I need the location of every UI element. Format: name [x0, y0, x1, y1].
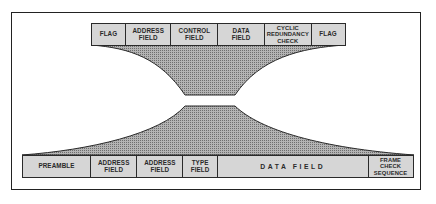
- top-field-crc: CYCLIC REDUNDANCY CHECK: [264, 23, 312, 46]
- top-field-flag-start: FLAG: [91, 23, 126, 46]
- top-field-control: CONTROL FIELD: [170, 23, 218, 46]
- bottom-field-preamble: PREAMBLE: [22, 155, 91, 178]
- bottom-field-address-1: ADDRESS FIELD: [90, 155, 138, 178]
- bottom-frame-row: PREAMBLE ADDRESS FIELD ADDRESS FIELD TYP…: [22, 155, 414, 178]
- top-field-address: ADDRESS FIELD: [125, 23, 172, 46]
- bottom-field-data: DATA FIELD: [217, 155, 369, 178]
- bottom-field-address-2: ADDRESS FIELD: [136, 155, 183, 178]
- bottom-field-fcs: FRAME CHECK SEQUENCE: [368, 155, 414, 178]
- top-frame-row: FLAG ADDRESS FIELD CONTROL FIELD DATA FI…: [91, 23, 346, 46]
- lower-funnel: [22, 106, 414, 155]
- upper-funnel: [91, 45, 345, 95]
- top-field-data: DATA FIELD: [217, 23, 265, 46]
- bottom-field-type: TYPE FIELD: [182, 155, 218, 178]
- top-field-flag-end: FLAG: [311, 23, 346, 46]
